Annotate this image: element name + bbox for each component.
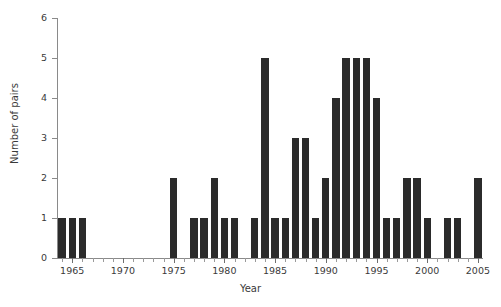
- x-tick-mark-minor: [366, 258, 367, 262]
- x-tick-mark-major: [377, 258, 378, 263]
- x-tick-mark-minor: [356, 258, 357, 262]
- x-tick-mark-minor: [194, 258, 195, 262]
- x-tick-mark-minor: [458, 258, 459, 262]
- x-tick-mark-minor: [214, 258, 215, 262]
- y-axis-title: Number of pairs: [9, 64, 20, 184]
- x-tick-label: 2000: [407, 266, 447, 276]
- bar: [474, 178, 481, 258]
- x-tick-mark-major: [174, 258, 175, 263]
- x-tick-mark-minor: [387, 258, 388, 262]
- x-tick-mark-minor: [93, 258, 94, 262]
- bar-chart: 0123456 19651970197519801985199019952000…: [0, 0, 501, 307]
- x-tick-mark-minor: [407, 258, 408, 262]
- y-tick-label: 3: [0, 133, 47, 143]
- x-tick-mark-minor: [153, 258, 154, 262]
- x-tick-mark-major: [224, 258, 225, 263]
- bar: [383, 218, 390, 258]
- bar: [302, 138, 309, 258]
- x-tick-mark-major: [427, 258, 428, 263]
- bar: [424, 218, 431, 258]
- y-tick-label: 6: [0, 13, 47, 23]
- x-tick-label: 1995: [357, 266, 397, 276]
- bar: [282, 218, 289, 258]
- bar: [221, 218, 228, 258]
- bar: [292, 138, 299, 258]
- x-tick-label: 1985: [255, 266, 295, 276]
- x-tick-label: 1975: [154, 266, 194, 276]
- bar: [170, 178, 177, 258]
- bar: [413, 178, 420, 258]
- bar: [190, 218, 197, 258]
- x-tick-mark-minor: [113, 258, 114, 262]
- bar: [261, 58, 268, 258]
- y-tick-label: 0: [0, 253, 47, 263]
- x-tick-label: 1965: [52, 266, 92, 276]
- y-tick-label: 2: [0, 173, 47, 183]
- x-tick-mark-minor: [184, 258, 185, 262]
- x-tick-label: 1980: [204, 266, 244, 276]
- x-tick-mark-minor: [103, 258, 104, 262]
- bar: [200, 218, 207, 258]
- bar: [363, 58, 370, 258]
- x-tick-mark-minor: [437, 258, 438, 262]
- bar: [211, 178, 218, 258]
- y-tick-label: 1: [0, 213, 47, 223]
- bar: [403, 178, 410, 258]
- x-tick-mark-minor: [346, 258, 347, 262]
- x-tick-mark-minor: [295, 258, 296, 262]
- bar: [332, 98, 339, 258]
- bar: [342, 58, 349, 258]
- bar: [58, 218, 65, 258]
- x-tick-mark-major: [275, 258, 276, 263]
- bar: [444, 218, 451, 258]
- x-tick-mark-minor: [245, 258, 246, 262]
- y-tick-label: 5: [0, 53, 47, 63]
- x-tick-label: 1970: [103, 266, 143, 276]
- y-tick-mark: [52, 258, 57, 259]
- y-tick-label: 4: [0, 93, 47, 103]
- x-tick-label: 2005: [458, 266, 498, 276]
- x-tick-mark-minor: [143, 258, 144, 262]
- bar: [251, 218, 258, 258]
- bar: [393, 218, 400, 258]
- x-tick-mark-minor: [468, 258, 469, 262]
- bar: [353, 58, 360, 258]
- bar: [312, 218, 319, 258]
- x-tick-mark-minor: [235, 258, 236, 262]
- bar: [79, 218, 86, 258]
- bar: [322, 178, 329, 258]
- bar: [454, 218, 461, 258]
- x-tick-mark-minor: [417, 258, 418, 262]
- x-tick-mark-major: [72, 258, 73, 263]
- x-tick-mark-minor: [62, 258, 63, 262]
- x-tick-mark-minor: [164, 258, 165, 262]
- x-tick-mark-minor: [204, 258, 205, 262]
- bar: [69, 218, 76, 258]
- x-tick-mark-minor: [306, 258, 307, 262]
- x-tick-mark-minor: [336, 258, 337, 262]
- x-tick-mark-major: [123, 258, 124, 263]
- x-tick-mark-minor: [133, 258, 134, 262]
- x-tick-mark-minor: [265, 258, 266, 262]
- x-tick-label: 1990: [306, 266, 346, 276]
- x-tick-mark-major: [478, 258, 479, 263]
- bar: [231, 218, 238, 258]
- x-tick-mark-major: [326, 258, 327, 263]
- bar: [373, 98, 380, 258]
- x-axis-line: [57, 258, 483, 259]
- bars-container: [57, 18, 483, 258]
- x-tick-mark-minor: [285, 258, 286, 262]
- x-tick-mark-minor: [397, 258, 398, 262]
- x-tick-mark-minor: [255, 258, 256, 262]
- bar: [271, 218, 278, 258]
- x-tick-mark-minor: [448, 258, 449, 262]
- x-tick-mark-minor: [316, 258, 317, 262]
- x-tick-mark-minor: [82, 258, 83, 262]
- x-axis-title: Year: [0, 283, 501, 294]
